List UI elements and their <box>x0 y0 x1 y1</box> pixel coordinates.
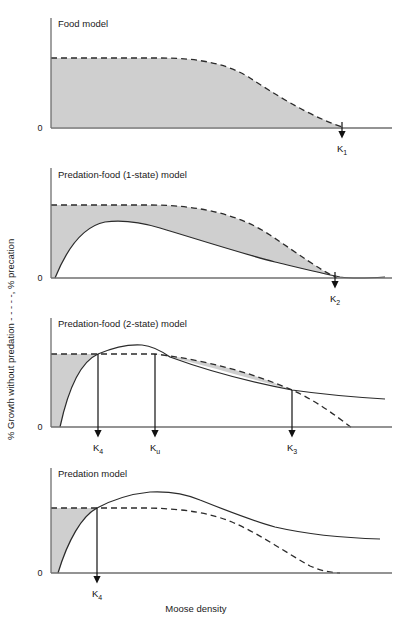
moose-density-model-figure: % Growth without predation - - - - -, % … <box>0 0 401 625</box>
predation-curve <box>60 345 385 427</box>
tick-label-k4-panel3: K4 <box>93 442 103 455</box>
panel-title-predation-food-2-state: Predation-food (2-state) model <box>58 318 187 329</box>
shaded-area-left-wedge <box>51 354 98 427</box>
panel-predation-food-1-state-model: 0 Predation-food (1-state) model K2 <box>37 168 392 306</box>
zero-tick-label: 0 <box>37 273 42 283</box>
growth-without-predation-curve <box>51 508 340 573</box>
zero-tick-label: 0 <box>37 422 42 432</box>
tick-marker-ku: Ku <box>150 354 160 455</box>
shaded-area-left-wedge <box>51 508 97 573</box>
zero-tick-label: 0 <box>37 123 42 133</box>
panel-title-predation-food-1-state: Predation-food (1-state) model <box>58 169 187 180</box>
x-axis-title: Moose density <box>165 603 227 614</box>
panel-title-food-model: Food model <box>58 18 108 29</box>
tick-marker-k4-panel4: K4 <box>92 508 102 601</box>
tick-label-k3: K3 <box>287 442 297 455</box>
zero-tick-label: 0 <box>37 568 42 578</box>
shaded-area-1-state <box>51 205 335 278</box>
panel-title-predation-model: Predation model <box>58 468 127 479</box>
tick-marker-k4-panel3: K4 <box>93 354 103 455</box>
panel-predation-food-2-state-model: 0 Predation-food (2-state) model K4 Ku K… <box>37 318 392 455</box>
tick-label-k2: K2 <box>330 293 340 306</box>
tick-label-k1: K1 <box>337 143 347 156</box>
tick-marker-k1: K1 <box>337 122 347 156</box>
shaded-area-food-model <box>51 58 342 127</box>
panel-food-model: 0 Food model K1 <box>37 18 392 156</box>
growth-without-predation-curve <box>51 354 352 428</box>
tick-label-k4-panel4: K4 <box>92 588 102 601</box>
tick-marker-k3: K3 <box>287 390 297 455</box>
predation-curve <box>58 492 380 573</box>
y-axis-title: % Growth without predation - - - - -, % … <box>5 239 16 440</box>
tick-label-ku: Ku <box>150 442 160 455</box>
panel-predation-model: 0 Predation model K4 <box>37 468 392 601</box>
